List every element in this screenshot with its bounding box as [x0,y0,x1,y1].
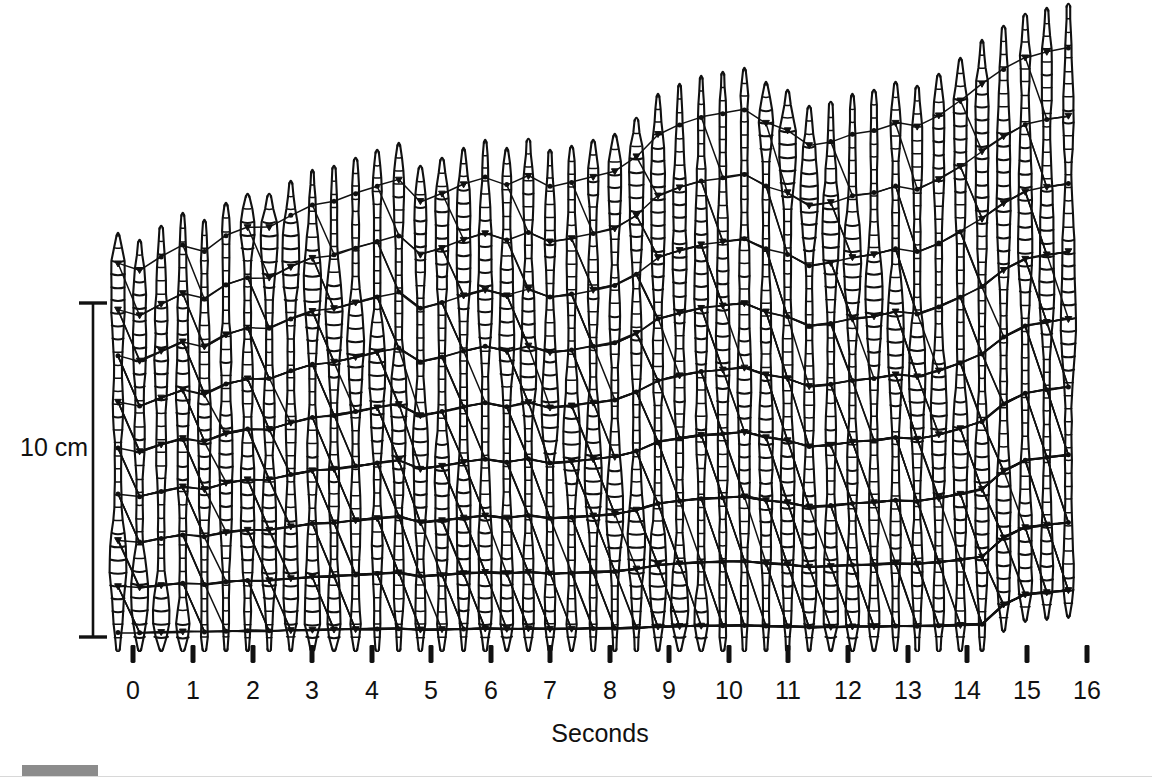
worm-segment-ring [262,573,276,574]
worm-segment-ring [631,353,641,354]
worm-segment-ring [415,259,425,260]
worm-segment-ring [888,355,903,356]
worm-segment-ring [716,336,729,337]
worm-segment-ring [435,495,449,496]
worm-segment-ring [783,586,793,587]
worm-segment-ring [652,238,665,239]
worm-segment-ring [997,512,1011,513]
worm-segment-ring [242,248,254,249]
worm-segment-ring [285,222,296,223]
worm-segment-ring [479,259,491,260]
worm-segment-ring [241,507,254,508]
worm-segment-ring [545,610,555,611]
worm-segment-ring [760,495,772,496]
worm-segment-ring [628,534,644,535]
worm-segment-ring [437,560,448,561]
worm-segment-ring [587,442,600,443]
worm-segment-ring [329,598,340,599]
worm-segment-ring [413,441,427,442]
worm-segment-ring [651,547,665,548]
worm-segment-ring [588,298,598,299]
worm-segment-ring [739,456,749,457]
worm-segment-ring [284,235,299,236]
worm-segment-ring [716,375,729,376]
worm-segment-ring [782,560,794,561]
worm-segment-ring [284,572,298,573]
worm-segment-ring [675,322,685,323]
worm-segment-ring [1041,540,1052,541]
worm-segment-ring [824,572,837,573]
worm-segment-ring [631,250,642,251]
worm-segment-ring [628,559,644,560]
worm-segment-ring [134,637,145,638]
worm-segment-ring [155,360,168,361]
worm-segment-ring [134,281,144,282]
worm-segment-ring [717,401,728,402]
worm-segment-ring [111,287,124,288]
worm-segment-ring [177,425,188,426]
worm-segment-ring [976,572,988,573]
worm-segment-ring [566,483,578,484]
worm-segment-ring [976,119,989,120]
worm-segment-ring [759,431,772,432]
worm-segment-ring [911,336,923,337]
worm-segment-ring [651,225,664,226]
worm-segment-ring [566,393,577,394]
x-axis-tick-mark [608,645,613,663]
worm-segment-ring [609,201,621,202]
x-axis-tick-label: 14 [953,676,981,705]
worm-segment-ring [997,146,1010,147]
worm-segment-ring [932,376,945,377]
worm-segment-ring [779,144,795,145]
x-axis-tick-mark [370,645,375,663]
worm-segment-ring [153,624,169,625]
worm-segment-ring [371,427,383,428]
worm-segment-ring [523,623,534,624]
worm-segment-ring [178,334,188,335]
worm-segment-ring [673,585,687,586]
worm-segment-ring [285,533,297,534]
worm-segment-ring [155,598,167,599]
worm-segment-ring [501,269,512,270]
worm-segment-ring [457,532,470,533]
worm-segment-ring [761,380,771,381]
worm-segment-ring [761,328,771,329]
worm-segment-ring [1020,147,1030,148]
worm-segment-ring [847,598,859,599]
worm-segment-ring [695,260,707,261]
worm-segment-ring [220,440,232,441]
worm-segment-ring [696,221,707,222]
worm-segment-ring [220,493,232,494]
worm-segment-ring [1062,291,1075,292]
worm-segment-ring [110,573,127,574]
x-axis-tick-mark [429,645,434,663]
worm-segment-ring [263,507,276,508]
worm-segment-ring [781,481,794,482]
worm-segment-ring [478,299,492,300]
worm-segment-ring [564,470,579,471]
worm-segment-ring [457,216,470,217]
worm-segment-ring [695,286,708,287]
worm-segment-ring [760,521,771,522]
worm-segment-ring [696,351,707,352]
worm-segment-ring [155,321,167,322]
worm-segment-ring [371,336,383,337]
worm-segment-ring [131,597,148,598]
worm-segment-ring [436,238,448,239]
worm-segment-ring [955,401,965,402]
worm-segment-ring [954,139,966,140]
worm-segment-ring [889,380,902,381]
worm-segment-ring [975,482,989,483]
worm-segment-ring [285,546,298,547]
worm-segment-ring [607,496,622,497]
worm-segment-ring [394,196,404,197]
worm-segment-ring [1041,553,1052,554]
worm-segment-ring [1063,122,1073,123]
worm-segment-ring [242,455,253,456]
worm-segment-ring [371,414,384,415]
x-axis-tick-label: 7 [543,676,557,705]
worm-segment-ring [845,238,860,239]
worm-segment-ring [607,521,624,522]
worm-segment-ring [997,172,1010,173]
worm-segment-ring [823,208,838,209]
